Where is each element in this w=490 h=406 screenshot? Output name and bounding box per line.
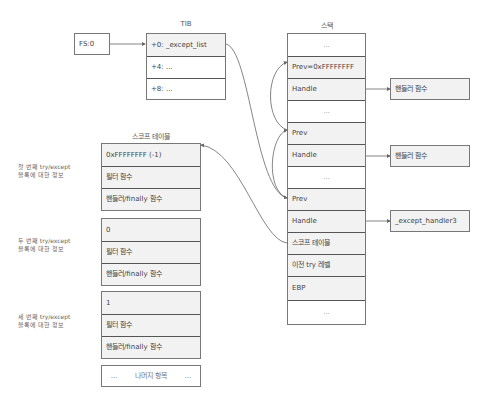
stack-row-handle: Handle: [288, 144, 365, 166]
stack-row-scope-table: 스코프 테이블: [288, 232, 365, 254]
ellipsis-left: ...: [111, 373, 118, 380]
block1-label: 첫 번째 try/except 블록에 대한 정보: [18, 163, 98, 179]
connector-arrows: [0, 0, 490, 406]
except-handler3-label: _except_handler3: [391, 211, 469, 231]
tib-title: TIB: [146, 20, 226, 28]
block2-label: 두 번째 try/except 블록에 대한 정보: [18, 237, 98, 253]
block2-label-line2: 블록에 대한 정보: [18, 245, 98, 253]
block3-label: 세 번째 try/except 블록에 대한 정보: [18, 313, 98, 329]
stack-row: ...: [288, 300, 365, 324]
handler-function-box: 핸들러 함수: [390, 145, 470, 167]
scope-rest-box: ... 나머지 항목 ...: [101, 365, 201, 387]
scope-entry-prev-level: 0: [102, 219, 200, 241]
block2-label-line1: 두 번째 try/except: [18, 237, 98, 245]
stack-row-handle: Handle: [288, 210, 365, 232]
handler-function-label: 핸들러 함수: [391, 146, 469, 166]
scope-entry-filter: 필터 함수: [102, 314, 200, 336]
stack-row: ...: [288, 166, 365, 188]
scope-entry-filter: 필터 함수: [102, 166, 200, 188]
fs-register-label: FS:0: [75, 34, 109, 54]
scope-entry-filter: 필터 함수: [102, 241, 200, 263]
stack-row-prev: Prev: [288, 188, 365, 210]
scope-entry-3: 1 필터 함수 핸들러/finally 함수: [101, 291, 201, 359]
stack-row-handle: Handle: [288, 78, 365, 100]
scope-entry-handler: 핸들러/finally 함수: [102, 336, 200, 358]
block1-label-line1: 첫 번째 try/except: [18, 163, 98, 171]
stack-row-try-level: 이전 try 레벨: [288, 254, 365, 276]
scope-entry-prev-level: 0xFFFFFFFF (-1): [102, 144, 200, 166]
tib-row-4: +4: ...: [147, 56, 225, 78]
handler-function-label: 핸들러 함수: [391, 79, 469, 99]
stack-row: ...: [288, 34, 365, 56]
tib-row-8: +8: ...: [147, 78, 225, 99]
scope-entry-handler: 핸들러/finally 함수: [102, 188, 200, 210]
scope-entry-1: 0xFFFFFFFF (-1) 필터 함수 핸들러/finally 함수: [101, 143, 201, 211]
scope-entry-handler: 핸들러/finally 함수: [102, 263, 200, 285]
scope-rest-row: ... 나머지 항목 ...: [102, 366, 200, 386]
scope-rest-label: 나머지 항목: [135, 373, 167, 380]
stack-row: ...: [288, 100, 365, 122]
block1-label-line2: 블록에 대한 정보: [18, 171, 98, 179]
scope-entry-2: 0 필터 함수 핸들러/finally 함수: [101, 218, 201, 286]
block3-label-line1: 세 번째 try/except: [18, 313, 98, 321]
stack-title: 스택: [287, 20, 366, 30]
scope-entry-prev-level: 1: [102, 292, 200, 314]
stack-row-prev: Prev: [288, 122, 365, 144]
handler-function-box: 핸들러 함수: [390, 78, 470, 100]
except-handler3-box: _except_handler3: [390, 210, 470, 232]
fs-register-box: FS:0: [74, 33, 110, 55]
block3-label-line2: 블록에 대한 정보: [18, 321, 98, 329]
ellipsis-right: ...: [185, 373, 192, 380]
stack-row-prev: Prev=0xFFFFFFFF: [288, 56, 365, 78]
scope-table-title: 스코프 테이블: [101, 131, 201, 141]
tib-row-except-list: +0: _except_list: [147, 34, 225, 56]
tib-box: +0: _except_list +4: ... +8: ...: [146, 33, 226, 100]
stack-row-ebp: EBP: [288, 276, 365, 300]
stack-box: ... Prev=0xFFFFFFFF Handle ... Prev Hand…: [287, 33, 366, 325]
